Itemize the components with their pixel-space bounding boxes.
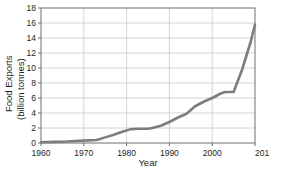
chart-figure: 024681012141618 19601970198019902000201 … (0, 0, 285, 170)
plot-background (41, 8, 255, 143)
x-tick-label: 1980 (117, 148, 136, 158)
y-tick-label: 10 (27, 63, 37, 73)
x-tick-label: 1960 (32, 148, 51, 158)
y-tick-label: 8 (31, 78, 36, 88)
y-tick-label: 18 (27, 3, 37, 13)
x-tick-label: 1970 (74, 148, 93, 158)
y-axis-tick-labels: 024681012141618 (27, 3, 37, 148)
y-tick-label: 14 (27, 33, 37, 43)
x-tick-label: 1990 (160, 148, 179, 158)
y-tick-label: 12 (27, 48, 37, 58)
line-chart: 024681012141618 19601970198019902000201 … (0, 0, 285, 170)
y-axis-title: Food Exports (billion tonnes) (3, 55, 26, 120)
x-tick-label: 201 (255, 148, 269, 158)
y-tick-label: 6 (31, 93, 36, 103)
x-tick-label: 2000 (203, 148, 222, 158)
y-tick-label: 16 (27, 18, 37, 28)
y-axis-title-line1: Food Exports (3, 55, 14, 112)
x-axis-title: Year (138, 157, 157, 168)
y-axis-title-line2: (billion tonnes) (15, 58, 26, 120)
y-tick-label: 4 (31, 108, 36, 118)
y-tick-label: 0 (31, 138, 36, 148)
y-tick-label: 2 (31, 123, 36, 133)
